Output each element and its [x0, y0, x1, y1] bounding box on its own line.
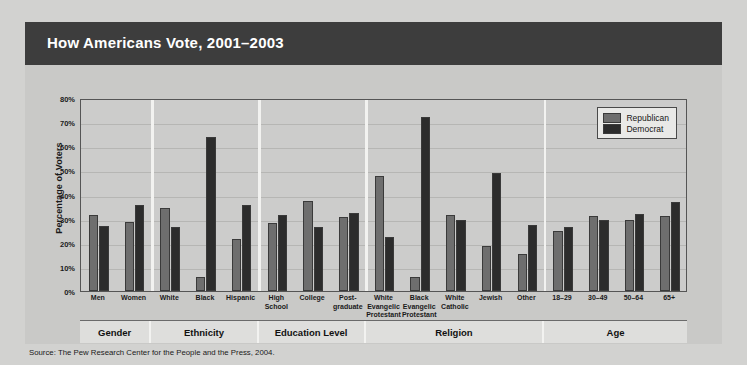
y-tick-label: 40%	[41, 192, 75, 201]
bar-republican	[375, 176, 384, 291]
plot-area: Republican Democrat	[80, 99, 687, 292]
legend-item-republican: Republican	[603, 112, 669, 123]
plot-wrapper: Percentage of Voters 80%70%60%50%40%30%2…	[25, 65, 722, 344]
bar-republican	[196, 277, 205, 291]
bar-democrat	[385, 237, 394, 291]
bar-democrat	[206, 137, 215, 291]
bar-republican	[268, 223, 277, 291]
group-label-education-level: Education Level	[259, 321, 366, 343]
bar-democrat	[278, 215, 287, 291]
y-tick-label: 10%	[41, 264, 75, 273]
bar-democrat	[421, 117, 430, 291]
bar-republican	[160, 208, 169, 291]
group-label-gender: Gender	[80, 321, 151, 343]
chart-card: How Americans Vote, 2001–2003 Percentage…	[25, 22, 722, 344]
y-tick-label: 70%	[41, 119, 75, 128]
bar-republican	[89, 215, 98, 291]
bar-democrat	[599, 220, 608, 291]
bar-republican	[446, 215, 455, 291]
bar-republican	[339, 217, 348, 291]
chart-page: How Americans Vote, 2001–2003 Percentage…	[0, 0, 747, 365]
legend-swatch-republican	[603, 113, 621, 123]
bar-republican	[482, 246, 491, 291]
bar-democrat	[635, 214, 644, 291]
bar-republican	[518, 254, 527, 291]
bar-republican	[660, 216, 669, 291]
bar-republican	[232, 239, 241, 291]
title-bar: How Americans Vote, 2001–2003	[25, 22, 722, 65]
bar-republican	[410, 277, 419, 291]
legend-item-democrat: Democrat	[603, 123, 669, 134]
bar-democrat	[99, 226, 108, 291]
chart-legend: Republican Democrat	[597, 107, 677, 139]
bar-republican	[589, 216, 598, 291]
category-label-line: Protestant	[389, 311, 450, 320]
bar-democrat	[242, 205, 251, 291]
bar-democrat	[564, 227, 573, 291]
y-tick-label: 50%	[41, 167, 75, 176]
category-label-line: Catholic	[425, 303, 486, 312]
page-title: How Americans Vote, 2001–2003	[47, 34, 284, 51]
y-tick-label: 20%	[41, 240, 75, 249]
group-label-band: GenderEthnicityEducation LevelReligionAg…	[80, 320, 687, 343]
group-label-religion: Religion	[366, 321, 545, 343]
y-axis-ticks: 80%70%60%50%40%30%20%10%0%	[35, 65, 75, 265]
bar-democrat	[671, 202, 680, 291]
group-label-ethnicity: Ethnicity	[151, 321, 258, 343]
category-label-line: School	[246, 303, 307, 312]
y-tick-label: 60%	[41, 143, 75, 152]
bar-republican	[625, 220, 634, 291]
bar-democrat	[492, 173, 501, 291]
legend-label-democrat: Democrat	[626, 124, 663, 134]
bar-republican	[125, 222, 134, 291]
category-label: 65+	[639, 294, 700, 303]
legend-swatch-democrat	[603, 124, 621, 134]
source-note: Source: The Pew Research Center for the …	[29, 348, 275, 357]
category-label-line: 65+	[639, 294, 700, 303]
bar-democrat	[349, 213, 358, 291]
bar-democrat	[456, 220, 465, 291]
legend-label-republican: Republican	[626, 113, 669, 123]
group-label-age: Age	[544, 321, 687, 343]
bar-republican	[553, 231, 562, 291]
bar-democrat	[135, 205, 144, 291]
bar-democrat	[314, 227, 323, 291]
y-tick-label: 30%	[41, 216, 75, 225]
bar-democrat	[528, 225, 537, 291]
y-tick-label: 80%	[41, 95, 75, 104]
bar-democrat	[171, 227, 180, 291]
bar-republican	[303, 201, 312, 291]
bars-layer	[81, 100, 686, 291]
